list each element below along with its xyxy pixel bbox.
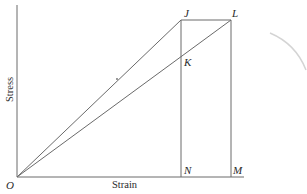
line-ol (17, 20, 231, 177)
line-oj (17, 20, 181, 177)
point-label-o: O (6, 179, 14, 191)
point-label-j: J (184, 7, 190, 19)
point-label-n: N (183, 164, 192, 176)
point-label-m: M (232, 164, 243, 176)
x-axis-label: Strain (112, 179, 138, 190)
point-label-k: K (183, 56, 192, 68)
y-axis-label: Stress (4, 77, 15, 102)
stress-strain-diagram: O J L K N M Strain Stress (0, 0, 307, 194)
point-label-l: L (231, 7, 238, 19)
mark-dot (116, 78, 118, 80)
decorative-arc (270, 33, 306, 70)
